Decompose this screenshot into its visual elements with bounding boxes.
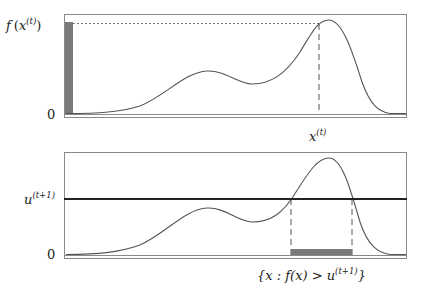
slice-set-label: {x : f(x) > u(t+1)}: [257, 266, 366, 283]
top-x-label: x(t): [309, 127, 326, 144]
top-zero-label: 0: [47, 107, 55, 122]
top-height-bar: [65, 22, 73, 114]
top-y-label: f(x(t)): [5, 16, 41, 33]
top-density-curve: [66, 20, 406, 114]
slice-sampling-figure: f(x(t)) 0 x(t) u(t+1) 0 {x : f(x) >: [0, 0, 427, 298]
threshold-label: u(t+1): [24, 190, 55, 207]
bottom-zero-label: 0: [47, 247, 55, 262]
slice-interval-bar: [291, 249, 352, 255]
top-panel: f(x(t)) 0 x(t): [5, 15, 407, 145]
bottom-panel: u(t+1) 0 {x : f(x) > u(t+1)}: [24, 153, 407, 284]
top-panel-frame: [65, 15, 407, 118]
bottom-density-curve: [66, 158, 406, 255]
